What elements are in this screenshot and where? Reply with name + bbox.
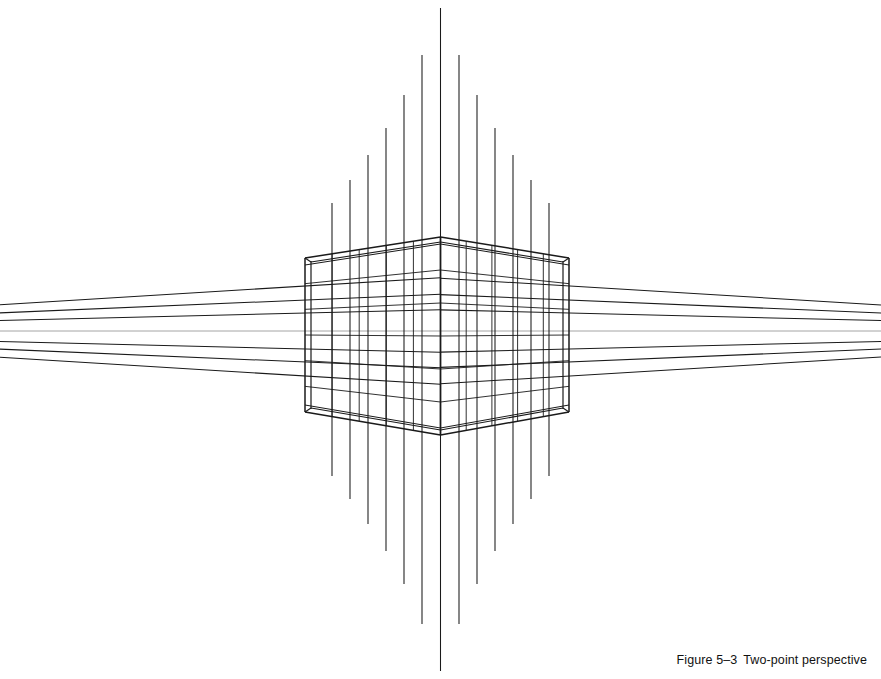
box-left-face-hline-2 <box>305 303 441 309</box>
converging-line-right-4 <box>441 341 881 352</box>
box-left-face-hline-4 <box>305 361 441 369</box>
figure-caption: Figure 5–3Two-point perspective <box>677 653 867 667</box>
box-bottom-rail-right-outer <box>441 412 570 435</box>
figure-caption-title: Two-point perspective <box>743 653 867 667</box>
converging-line-right-6 <box>441 357 881 384</box>
converging-line-right-1 <box>441 295 881 313</box>
box-right-top-cap <box>563 258 569 262</box>
box-left-face-hline-3 <box>305 335 441 336</box>
figure-caption-label: Figure 5–3 <box>677 653 738 667</box>
converging-line-left-1 <box>0 294 441 313</box>
box-bottom-rail-left-outer <box>305 412 441 435</box>
converging-line-right-0 <box>441 278 881 305</box>
box-group <box>305 237 569 435</box>
figure-two-point-perspective: Figure 5–3Two-point perspective <box>0 0 881 679</box>
box-right-face-hline-3 <box>441 335 570 336</box>
box-right-bottom-cap <box>563 408 569 412</box>
box-left-top-cap <box>305 258 311 262</box>
box-left-bottom-cap <box>305 408 311 412</box>
converging-line-left-6 <box>0 357 441 384</box>
converging-line-left-4 <box>0 342 441 353</box>
box-bottom-rail-left-over <box>305 405 441 428</box>
converging-line-right-2 <box>441 310 881 321</box>
box-bottom-rail-right-over <box>441 405 570 428</box>
converging-line-left-0 <box>0 278 441 305</box>
box-left-face-hline-5 <box>305 386 441 402</box>
box-right-face-hline-5 <box>441 386 570 402</box>
converging-line-left-2 <box>0 310 441 321</box>
box-bottom-rail-left-inner <box>311 408 441 430</box>
box-right-face-hline-4 <box>441 361 570 369</box>
perspective-drawing <box>0 0 881 679</box>
box-top-rail-left-inner <box>311 242 441 262</box>
box-right-face-hline-2 <box>441 303 570 309</box>
